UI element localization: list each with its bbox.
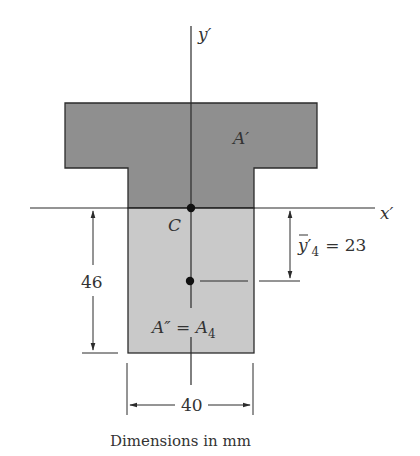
centroid-label: C	[168, 215, 181, 235]
centroid-c-dot	[187, 204, 195, 212]
t-section-diagram: y′ x′ C A′ A″ = A4 y′4= 23 46 40 Dimensi…	[0, 0, 420, 456]
caption: Dimensions in mm	[110, 432, 251, 450]
x-axis-label: x′	[380, 203, 394, 223]
height-dimension-label: 46	[81, 272, 103, 292]
width-dimension-label: 40	[181, 395, 203, 415]
ybar-label: y′4= 23	[297, 235, 366, 259]
y-axis-label: y′	[197, 24, 212, 44]
upper-area-label: A′	[231, 128, 249, 148]
centroid-a4-dot	[186, 277, 194, 285]
